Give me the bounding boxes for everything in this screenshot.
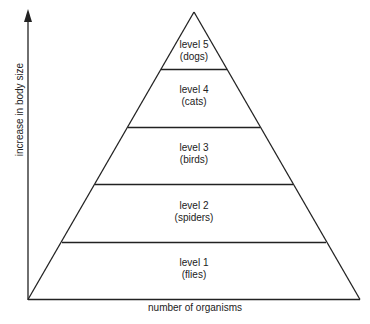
y-axis-label: increase in body size [14,55,25,165]
level-5-label: level 5 (dogs) [180,39,209,63]
level-5-organism: (dogs) [180,51,209,63]
level-1-organism: (flies) [180,269,209,281]
level-3-name: level 3 [180,142,209,154]
level-4-label: level 4 (cats) [180,84,209,108]
level-2-label: level 2 (spiders) [175,200,214,224]
level-5-name: level 5 [180,39,209,51]
level-2-name: level 2 [175,200,214,212]
level-2-organism: (spiders) [175,212,214,224]
y-axis-arrowhead [24,9,32,22]
pyramid-right-edge [194,12,360,300]
level-4-organism: (cats) [180,96,209,108]
level-1-label: level 1 (flies) [180,257,209,281]
pyramid-left-edge [28,12,194,300]
x-axis-label: number of organisms [148,302,242,313]
level-3-organism: (birds) [180,154,209,166]
level-1-name: level 1 [180,257,209,269]
level-3-label: level 3 (birds) [180,142,209,166]
level-4-name: level 4 [180,84,209,96]
